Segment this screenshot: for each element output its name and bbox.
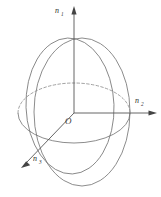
axis-n1-subscript: 1 (61, 11, 64, 17)
indicatrix-diagram: n 1 n 2 n 3 O (0, 0, 161, 197)
axis-n3-arrowhead (21, 161, 30, 168)
tilted-ellipse (24, 37, 117, 176)
indicatrix-figure: n 1 n 2 n 3 O (0, 0, 161, 197)
axis-n2-arrowhead (149, 110, 158, 115)
axis-n2-label: n (135, 96, 139, 105)
axis-n2-subscript: 2 (141, 101, 144, 107)
axis-n3-subscript: 3 (39, 159, 42, 165)
axis-n1-label: n (55, 6, 59, 15)
axis-n1: n 1 (55, 6, 77, 113)
origin-label: O (65, 116, 72, 126)
axis-n1-arrowhead (71, 6, 76, 15)
axis-n2: n 2 (74, 96, 157, 116)
axis-n3-label: n (33, 154, 37, 163)
